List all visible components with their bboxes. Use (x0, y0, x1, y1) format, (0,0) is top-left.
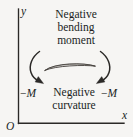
y-axis-label: y (21, 6, 26, 18)
origin-label: O (6, 121, 14, 133)
curved-beam-segment (45, 64, 96, 71)
top-caption-line-1: Negative (38, 8, 114, 21)
curved-moment-arrow-right (96, 52, 109, 84)
top-caption: Negative bending moment (38, 8, 114, 48)
bottom-caption-line-2: curvature (36, 99, 112, 112)
moment-label-left-symbol: M (27, 87, 37, 99)
top-caption-line-2: bending (38, 21, 114, 34)
negative-bending-moment-figure: y x O Negative bending moment Negative c… (0, 0, 133, 137)
x-axis-label: x (122, 110, 127, 122)
moment-label-left: −M (20, 88, 36, 100)
top-caption-line-3: moment (38, 34, 114, 47)
moment-label-right: −M (101, 88, 117, 100)
moment-label-right-symbol: M (108, 87, 118, 99)
curved-moment-arrow-left (30, 52, 43, 84)
